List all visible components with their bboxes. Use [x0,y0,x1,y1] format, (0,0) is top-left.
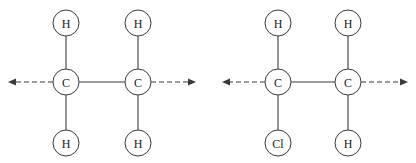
atom-c[interactable]: C [125,69,151,95]
m2-arrow-right [361,79,408,86]
diagram-stage: CCHHHHCCHHClH [0,0,416,163]
atom-label: H [62,17,71,31]
atom-h[interactable]: H [265,10,291,36]
m2-arrow-left [222,79,265,86]
atom-label: C [344,76,352,90]
molecular-diagram: CCHHHHCCHHClH [0,0,416,163]
atom-label: C [274,76,282,90]
atom-label: C [134,76,142,90]
arrow-head-left [222,79,230,86]
atom-label: H [134,137,143,151]
molecule-1: CCHHHH [8,10,196,156]
arrow-head-left [8,79,16,86]
atom-label: H [344,17,353,31]
atom-label: H [134,17,143,31]
m1-arrow-right [151,79,196,86]
arrow-head-right [188,79,196,86]
atom-h[interactable]: H [125,130,151,156]
atom-h[interactable]: H [335,10,361,36]
atom-c[interactable]: C [265,69,291,95]
atom-c[interactable]: C [335,69,361,95]
atom-label: C [62,76,70,90]
molecule-1-atoms: CCHHHH [53,10,151,156]
arrow-head-right [400,79,408,86]
molecule-2-atoms: CCHHClH [265,10,361,156]
atom-label: Cl [272,137,284,151]
atom-h[interactable]: H [53,10,79,36]
atom-label: H [344,137,353,151]
atom-label: H [274,17,283,31]
atom-c[interactable]: C [53,69,79,95]
atom-cl[interactable]: Cl [265,130,291,156]
atom-h[interactable]: H [335,130,361,156]
atom-h[interactable]: H [53,130,79,156]
molecule-2: CCHHClH [222,10,408,156]
m1-arrow-left [8,79,53,86]
atom-label: H [62,137,71,151]
atom-h[interactable]: H [125,10,151,36]
